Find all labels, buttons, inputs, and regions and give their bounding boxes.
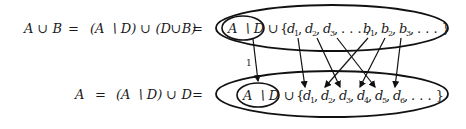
svg-text:,: ,	[350, 88, 354, 103]
bottom-eq2: =	[192, 87, 203, 102]
top-eq2: =	[192, 21, 203, 36]
svg-text:,: ,	[410, 21, 414, 36]
bijection-diagram: A ∪ B = (A ∖ D) ∪ (D∪B) = A ∖ D ∪ { d1, …	[0, 0, 466, 129]
arrow-d1-d1	[298, 38, 305, 87]
mapping-arrows	[253, 38, 401, 87]
svg-text:,: ,	[314, 88, 318, 103]
bottom-set-elements: { d1, d2, d3, d4, d5, d6, . . . }	[296, 88, 444, 105]
svg-text:,: ,	[374, 21, 378, 36]
top-middle: (A ∖ D) ∪ (D∪B)	[90, 21, 196, 36]
bottom-lhs: A	[74, 87, 84, 102]
bottom-middle: (A ∖ D) ∪ D	[116, 87, 192, 102]
svg-text:,: ,	[316, 21, 320, 36]
svg-text:,: ,	[332, 88, 336, 103]
top-set-elements: { d1, d2, d3, . . . , b1, b2, b3, . . . …	[280, 21, 450, 38]
arrow-d3-d5	[337, 38, 375, 87]
arrow-b3-d6	[395, 38, 401, 87]
bottom-union: ∪	[284, 88, 295, 103]
svg-text:,: ,	[298, 21, 302, 36]
svg-text:. . . }: . . . }	[411, 88, 444, 103]
bottom-inner-set: A ∖ D	[242, 88, 280, 103]
arrow-d2-d3	[317, 38, 340, 87]
svg-text:,: ,	[392, 21, 396, 36]
top-eq1: =	[68, 21, 79, 36]
bottom-eq1: =	[95, 87, 106, 102]
identity-label: 1	[246, 58, 252, 68]
arrow-b2-d4	[360, 38, 385, 87]
top-inner-set: A ∖ D	[227, 21, 265, 36]
svg-text:,: ,	[368, 88, 372, 103]
svg-text:. . . }: . . . }	[417, 21, 450, 36]
top-lhs: A ∪ B	[23, 21, 62, 36]
top-union: ∪	[268, 21, 279, 36]
svg-text:,: ,	[386, 88, 390, 103]
svg-text:,: ,	[334, 21, 338, 36]
svg-text:,: ,	[404, 88, 408, 103]
arrow-b1-d2	[325, 38, 368, 87]
